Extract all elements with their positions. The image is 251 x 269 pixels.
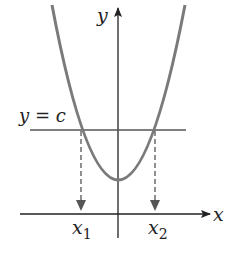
dashed-drop-x1 xyxy=(76,131,86,211)
line-label: y = c xyxy=(18,105,66,126)
diagram: y x y = c x1 x2 xyxy=(0,0,251,269)
point-label-x2: x2 xyxy=(148,216,168,242)
x-axis-label: x xyxy=(213,203,224,225)
point-label-x1: x1 xyxy=(72,216,92,242)
dashed-drop-x2 xyxy=(150,131,160,211)
y-axis-label: y xyxy=(96,4,108,26)
